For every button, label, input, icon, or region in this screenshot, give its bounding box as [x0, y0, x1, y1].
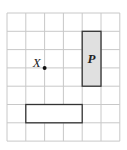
point-x-dot: [43, 66, 47, 70]
point-x-label: X: [32, 55, 42, 70]
rectangle-bottom: [26, 105, 82, 123]
grid-diagram: P X: [0, 0, 127, 150]
rectangle-p-label: P: [88, 51, 97, 66]
